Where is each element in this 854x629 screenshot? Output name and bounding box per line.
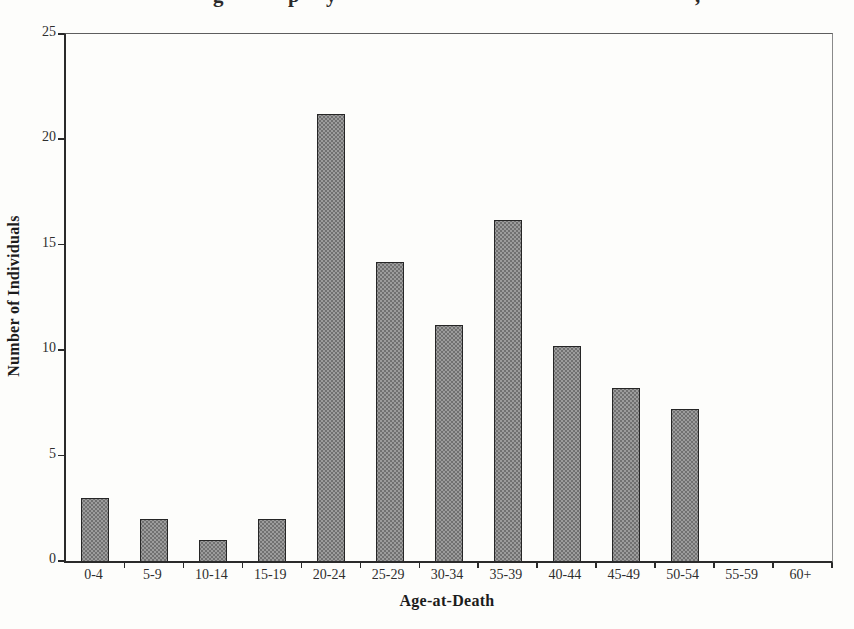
y-tick-mark xyxy=(58,244,64,246)
x-tick-label-10-14: 10-14 xyxy=(182,567,241,583)
x-tick-label-20-24: 20-24 xyxy=(300,567,359,583)
cropped-title-band: gpy, xyxy=(0,0,854,9)
x-tick-label-60+: 60+ xyxy=(771,567,830,583)
y-tick-mark xyxy=(58,349,64,351)
y-tick-label-0: 0 xyxy=(0,551,56,567)
x-tick-label-35-39: 35-39 xyxy=(476,567,535,583)
y-tick-label-15: 15 xyxy=(0,235,56,251)
x-axis-title: Age-at-Death xyxy=(64,592,830,610)
bar-50-54 xyxy=(671,409,699,561)
bar-15-19 xyxy=(258,519,286,561)
x-tick-label-50-54: 50-54 xyxy=(653,567,712,583)
bar-0-4 xyxy=(81,498,109,561)
bar-30-34 xyxy=(435,325,463,561)
y-tick-label-20: 20 xyxy=(0,129,56,145)
x-axis-labels: 0-45-910-1415-1920-2425-2930-3435-3940-4… xyxy=(64,567,830,583)
y-tick-mark xyxy=(58,33,64,35)
bar-35-39 xyxy=(494,220,522,561)
y-tick-mark xyxy=(58,455,64,457)
bar-40-44 xyxy=(553,346,581,561)
y-tick-label-10: 10 xyxy=(0,340,56,356)
y-tick-label-5: 5 xyxy=(0,446,56,462)
x-tick-label-40-44: 40-44 xyxy=(535,567,594,583)
x-tick-mark xyxy=(831,563,833,568)
plot-area xyxy=(64,33,833,563)
bar-5-9 xyxy=(140,519,168,561)
title-descender-fragment: , xyxy=(695,0,700,6)
y-tick-mark xyxy=(58,560,64,562)
title-descender-fragment: g xyxy=(213,0,224,6)
x-tick-label-55-59: 55-59 xyxy=(712,567,771,583)
y-tick-mark xyxy=(58,138,64,140)
bar-45-49 xyxy=(612,388,640,561)
bar-25-29 xyxy=(376,262,404,561)
title-descender-fragment: p xyxy=(288,0,300,6)
y-tick-label-25: 25 xyxy=(0,24,56,40)
x-tick-label-5-9: 5-9 xyxy=(123,567,182,583)
title-descender-fragment: y xyxy=(326,0,337,6)
scanned-chart-page: gpy, Number of Individuals 0-45-910-1415… xyxy=(0,0,854,629)
bar-20-24 xyxy=(317,114,345,561)
x-tick-label-0-4: 0-4 xyxy=(64,567,123,583)
x-tick-label-30-34: 30-34 xyxy=(418,567,477,583)
x-tick-label-15-19: 15-19 xyxy=(241,567,300,583)
bar-10-14 xyxy=(199,540,227,561)
x-tick-label-25-29: 25-29 xyxy=(359,567,418,583)
x-tick-label-45-49: 45-49 xyxy=(594,567,653,583)
